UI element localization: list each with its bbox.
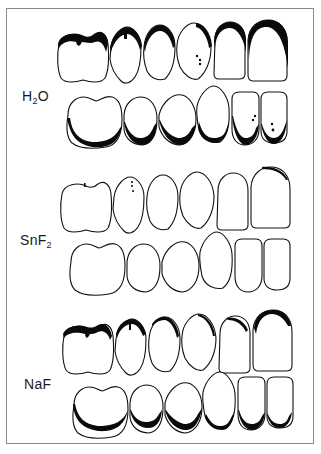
teeth-diagram [0,0,321,454]
snf2-lower-row [70,232,290,295]
snf2-upper-row [61,167,290,233]
